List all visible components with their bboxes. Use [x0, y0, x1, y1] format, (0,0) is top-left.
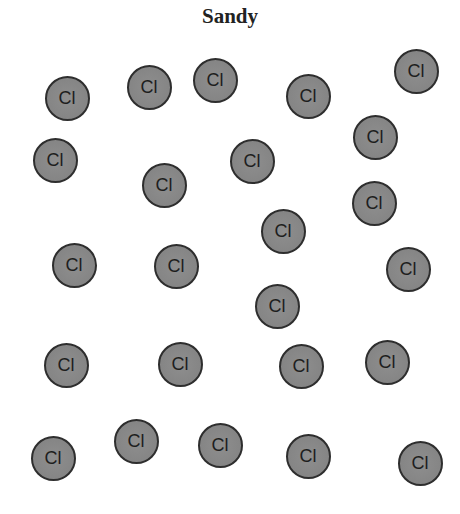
chlorine-atom: Cl: [352, 181, 397, 226]
chlorine-atom: Cl: [44, 343, 89, 388]
chlorine-atom: Cl: [31, 436, 76, 481]
chlorine-atom: Cl: [127, 65, 172, 110]
chlorine-atom: Cl: [261, 209, 306, 254]
chlorine-atom: Cl: [279, 344, 324, 389]
chlorine-atom: Cl: [193, 58, 238, 103]
chlorine-atom: Cl: [353, 115, 398, 160]
chlorine-atom: Cl: [286, 434, 331, 479]
chlorine-atom: Cl: [386, 247, 431, 292]
chlorine-atom: Cl: [33, 138, 78, 183]
chlorine-atom: Cl: [230, 139, 275, 184]
chlorine-atom: Cl: [365, 340, 410, 385]
chlorine-atom: Cl: [255, 284, 300, 329]
diagram-title: Sandy: [0, 4, 460, 29]
chlorine-atom: Cl: [394, 49, 439, 94]
chlorine-atom: Cl: [398, 441, 443, 486]
chlorine-atom: Cl: [45, 76, 90, 121]
chlorine-atom: Cl: [52, 243, 97, 288]
chlorine-atom: Cl: [114, 419, 159, 464]
chlorine-atom: Cl: [286, 74, 331, 119]
chlorine-atom: Cl: [142, 163, 187, 208]
chlorine-atom: Cl: [154, 244, 199, 289]
chlorine-atom: Cl: [158, 342, 203, 387]
chlorine-atom: Cl: [198, 423, 243, 468]
